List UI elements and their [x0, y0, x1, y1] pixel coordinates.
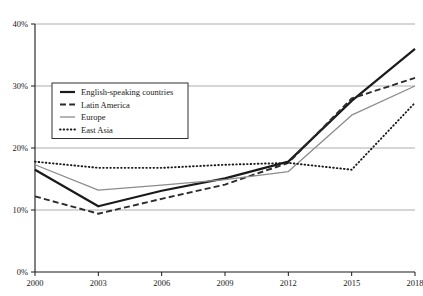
x-tick-label: 2009 [217, 278, 234, 288]
x-tick-label: 2000 [27, 278, 44, 288]
legend-label-europe: Europe [81, 112, 106, 122]
y-tick-label: 40% [12, 19, 28, 29]
y-tick-label: 10% [12, 205, 28, 215]
y-tick-label: 30% [12, 81, 28, 91]
legend-label-latin-america: Latin America [81, 100, 130, 110]
x-tick-label: 2012 [280, 278, 297, 288]
y-axis-ticks: 0%10%20%30%40% [12, 19, 35, 277]
legend: English-speaking countriesLatin AmericaE… [52, 83, 188, 139]
legend-label-east-asia: East Asia [81, 125, 113, 135]
x-axis-ticks: 2000200320062009201220152018 [27, 272, 423, 288]
y-tick-label: 20% [12, 143, 28, 153]
x-tick-label: 2018 [407, 278, 423, 288]
chart-canvas: 0%10%20%30%40%20002003200620092012201520… [0, 0, 423, 296]
x-tick-label: 2015 [343, 278, 360, 288]
y-tick-label: 0% [17, 267, 28, 277]
x-tick-label: 2006 [153, 278, 170, 288]
x-tick-label: 2003 [90, 278, 107, 288]
line-chart: 0%10%20%30%40%20002003200620092012201520… [0, 0, 423, 296]
legend-label-english-speaking-countries: English-speaking countries [81, 87, 173, 97]
